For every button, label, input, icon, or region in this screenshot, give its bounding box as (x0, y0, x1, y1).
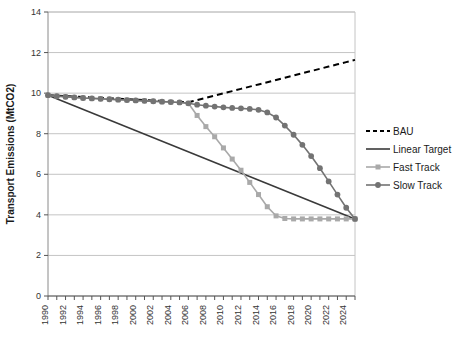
x-tick-label: 2014 (251, 305, 261, 325)
x-tick-label: 2008 (198, 305, 208, 325)
y-tick-label: 0 (36, 291, 41, 301)
data-point (177, 100, 183, 106)
data-point (115, 97, 121, 103)
data-point (299, 142, 305, 148)
data-point (291, 216, 296, 221)
data-point (54, 93, 60, 99)
data-point (344, 216, 349, 221)
x-axis: 1990199219941996199820002002200420062008… (40, 296, 355, 325)
y-tick-label: 4 (36, 210, 41, 220)
x-tick-label: 2022 (321, 305, 331, 325)
data-point (247, 180, 252, 185)
x-tick-label: 1992 (58, 305, 68, 325)
data-point (317, 216, 322, 221)
data-point (238, 105, 244, 111)
y-tick-label: 14 (31, 7, 41, 17)
data-point (221, 145, 226, 150)
data-point (326, 178, 332, 184)
data-point (230, 157, 235, 162)
x-tick-label: 2024 (338, 305, 348, 325)
data-point (229, 105, 235, 111)
data-point (185, 100, 191, 106)
data-point (195, 113, 200, 118)
data-point (159, 99, 165, 105)
y-tick-label: 10 (31, 88, 41, 98)
data-point (212, 104, 218, 110)
x-tick-label: 2006 (180, 305, 190, 325)
data-point (45, 92, 51, 98)
y-tick-label: 6 (36, 169, 41, 179)
data-point (150, 98, 156, 104)
data-point (256, 107, 262, 113)
data-point (291, 132, 297, 138)
data-point (308, 153, 314, 159)
data-point (273, 115, 279, 121)
x-tick-label: 2010 (215, 305, 225, 325)
legend-label: Fast Track (393, 162, 441, 173)
data-point (98, 96, 104, 102)
x-tick-label: 2020 (303, 305, 313, 325)
data-point (212, 134, 217, 139)
data-point (194, 102, 200, 108)
y-axis-title: Transport Emissions (MtCO2) (5, 84, 16, 225)
data-point (309, 216, 314, 221)
x-tick-label: 1996 (93, 305, 103, 325)
data-point (71, 95, 77, 101)
chart-figure: 02468101214Transport Emissions (MtCO2)19… (0, 0, 463, 340)
data-point (107, 96, 113, 102)
chart-canvas: 02468101214Transport Emissions (MtCO2)19… (0, 0, 463, 340)
data-point (343, 205, 349, 211)
data-point (256, 192, 261, 197)
data-point (80, 95, 86, 101)
x-tick-label: 2002 (145, 305, 155, 325)
data-point (282, 123, 288, 129)
data-point (168, 99, 174, 105)
y-axis: 02468101214 (31, 7, 48, 301)
data-point (274, 213, 279, 218)
x-tick-label: 1994 (75, 305, 85, 325)
data-point (352, 216, 358, 222)
legend-marker (375, 182, 381, 188)
legend: BAULinear TargetFast TrackSlow Track (366, 126, 451, 191)
x-tick-label: 2016 (268, 305, 278, 325)
data-point (142, 98, 148, 104)
data-point (335, 192, 341, 198)
data-point (265, 204, 270, 209)
data-point (326, 216, 331, 221)
x-tick-label: 1998 (110, 305, 120, 325)
data-point (63, 94, 69, 100)
y-tick-label: 2 (36, 250, 41, 260)
x-tick-label: 2000 (128, 305, 138, 325)
legend-label: Linear Target (393, 144, 451, 155)
data-point (133, 98, 139, 104)
data-point (264, 110, 270, 116)
data-point (282, 216, 287, 221)
data-point (89, 96, 95, 102)
data-point (221, 104, 227, 110)
y-tick-label: 12 (31, 48, 41, 58)
data-point (203, 103, 209, 109)
x-tick-label: 2012 (233, 305, 243, 325)
x-tick-label: 1990 (40, 305, 50, 325)
data-point (317, 165, 323, 171)
data-point (124, 97, 130, 103)
x-tick-label: 2004 (163, 305, 173, 325)
data-point (238, 168, 243, 173)
legend-item[interactable]: BAU (366, 126, 414, 137)
data-point (335, 216, 340, 221)
y-tick-label: 8 (36, 129, 41, 139)
legend-marker (376, 165, 381, 170)
legend-label: BAU (393, 126, 414, 137)
legend-item[interactable]: Linear Target (366, 144, 451, 155)
data-point (247, 106, 253, 112)
legend-item[interactable]: Slow Track (366, 180, 443, 191)
data-point (300, 216, 305, 221)
legend-label: Slow Track (393, 180, 443, 191)
x-tick-label: 2018 (286, 305, 296, 325)
data-point (203, 124, 208, 129)
legend-item[interactable]: Fast Track (366, 162, 441, 173)
